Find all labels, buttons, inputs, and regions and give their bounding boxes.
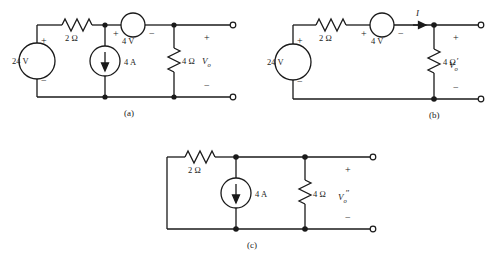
voltage-source-a-4v [121, 13, 145, 37]
output-polarity-b-plus: + [453, 33, 459, 43]
label-c-current-source-4a: 4 A [255, 189, 267, 199]
resistor-c-load-4ohm [299, 180, 311, 204]
voltage-source-b-4v [370, 13, 394, 37]
resistor-c-series-2ohm [185, 151, 215, 163]
node-dot-c-bottom-right [302, 226, 308, 232]
output-label-c: Vo″ [338, 188, 350, 204]
label-c-resistor-2ohm: 2 Ω [188, 165, 201, 175]
output-terminal-c-positive [370, 154, 376, 160]
label-b-resistor-2ohm: 2 Ω [319, 33, 332, 43]
output-polarity-a-minus: − [204, 81, 210, 91]
label-a-resistor-4ohm: 4 Ω [182, 56, 195, 66]
label-b-24v: 24 V [267, 57, 284, 67]
node-dot-a-bottom-right [171, 94, 176, 99]
circuit-c-schematic [140, 132, 400, 254]
label-a-4v: 4 V [122, 36, 134, 46]
polarity-a-4v-plus: + [113, 29, 119, 39]
label-b-4v: 4 V [371, 36, 383, 46]
resistor-a-load-4ohm [168, 48, 180, 72]
figure-canvas: 24 V + − 2 Ω 4 V + − 4 A 4 Ω + Vo − (a) [0, 0, 503, 254]
output-terminal-c-negative [370, 226, 376, 232]
polarity-a-4v-minus: − [149, 29, 155, 39]
label-a-resistor-2ohm: 2 Ω [65, 33, 78, 43]
output-terminal-b-positive [478, 22, 484, 28]
polarity-b-4v-plus: + [361, 29, 367, 39]
output-label-a: Vo [202, 56, 211, 68]
resistor-b-series-2ohm [316, 19, 346, 31]
label-a-current-source-4a: 4 A [124, 57, 136, 67]
output-label-b-prime: ′ [457, 56, 459, 66]
circuit-panel-a: 24 V + − 2 Ω 4 V + − 4 A 4 Ω + Vo − (a) [0, 0, 250, 128]
polarity-b-24v-minus: − [297, 77, 303, 87]
label-a-24v: 24 V [12, 56, 29, 66]
output-polarity-b-minus: − [453, 83, 459, 93]
resistor-b-load-4ohm [428, 49, 440, 73]
node-dot-b-top [431, 22, 437, 28]
label-c-resistor-4ohm: 4 Ω [313, 189, 326, 199]
node-dot-b-bottom [431, 96, 437, 102]
output-label-a-sub: o [208, 61, 211, 68]
node-dot-c-bottom-left [233, 226, 239, 232]
output-polarity-c-plus: + [345, 165, 351, 175]
polarity-b-4v-minus: − [398, 29, 404, 39]
node-dot-a-bottom-left [102, 94, 107, 99]
caption-c: (c) [247, 240, 257, 250]
circuit-panel-b: 24 V + − 2 Ω 4 V + − I 4 Ω + Vo′ − (b) [253, 0, 503, 128]
polarity-a-24v-plus: + [41, 36, 47, 46]
label-b-current-i: I [416, 8, 419, 18]
node-dot-a-top-left [102, 22, 107, 27]
node-dot-c-top-right [302, 154, 308, 160]
node-dot-c-top-left [233, 154, 239, 160]
output-label-c-prime: ″ [346, 188, 350, 198]
polarity-a-24v-minus: − [41, 76, 47, 86]
node-dot-a-top-right [171, 22, 176, 27]
output-terminal-a-negative [230, 94, 236, 100]
output-polarity-a-plus: + [204, 33, 210, 43]
output-label-b: Vo′ [449, 56, 459, 72]
output-polarity-c-minus: − [345, 213, 351, 223]
circuit-panel-c: 2 Ω 4 A 4 Ω + Vo″ − (c) [140, 132, 400, 254]
current-arrow-b-head [419, 22, 427, 29]
output-terminal-b-negative [478, 96, 484, 102]
output-terminal-a-positive [230, 22, 236, 28]
resistor-a-series-2ohm [62, 19, 92, 31]
circuit-b-schematic [253, 0, 503, 128]
polarity-b-24v-plus: + [297, 36, 303, 46]
caption-b: (b) [429, 110, 440, 120]
caption-a: (a) [124, 108, 134, 118]
